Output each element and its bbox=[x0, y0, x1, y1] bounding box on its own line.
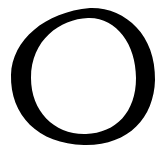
canvas bbox=[0, 0, 167, 155]
